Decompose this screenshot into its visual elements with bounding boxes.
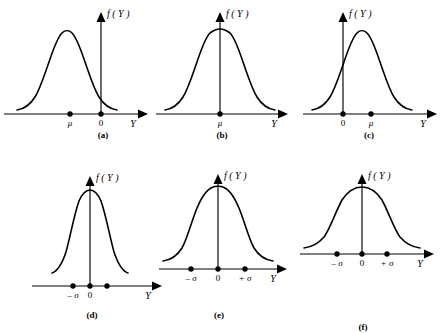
density-label: f ( Y )	[224, 170, 247, 182]
origin-dot	[340, 111, 345, 116]
tick-label-minus-sigma: – σ	[66, 290, 79, 300]
tick-label-mu: μ	[217, 118, 223, 128]
tick-dot-plus-sigma	[242, 266, 247, 271]
x-axis-arrow-icon	[277, 265, 287, 274]
panel-e-plot: – σ 0 + σ Y f ( Y )	[155, 166, 305, 286]
y-axis-arrow-icon	[97, 12, 106, 22]
tick-label-zero: 0	[88, 290, 93, 300]
panel-c: 0 μ Y f ( Y ) (c)	[299, 4, 445, 126]
panel-caption-f: (f)	[318, 322, 408, 332]
tick-label-mu: μ	[67, 118, 73, 128]
x-axis-title: Y	[420, 118, 427, 129]
tick-label-mu: μ	[368, 118, 374, 128]
normal-curve-c	[312, 31, 412, 110]
panel-caption-e: (e)	[174, 310, 264, 320]
density-label: f ( Y )	[349, 8, 372, 20]
origin-dot	[359, 251, 364, 256]
density-label: f ( Y )	[96, 172, 119, 184]
tick-dot-minus-sigma	[334, 251, 339, 256]
y-axis-arrow-icon	[358, 174, 367, 184]
panel-f: – σ 0 + σ Y f ( Y ) (f)	[296, 166, 445, 276]
origin-dot	[215, 266, 220, 271]
x-axis-title: Y	[130, 118, 137, 129]
tick-label-zero: 0	[99, 118, 104, 128]
panel-e: – σ 0 + σ Y f ( Y ) (e)	[155, 166, 305, 286]
panel-f-plot: – σ 0 + σ Y f ( Y )	[296, 166, 445, 276]
x-axis-title: Y	[271, 118, 278, 129]
panel-c-plot: 0 μ Y f ( Y )	[299, 4, 445, 126]
x-axis-arrow-icon	[424, 250, 434, 259]
panel-caption-c: (c)	[324, 130, 414, 140]
density-label: f ( Y )	[368, 170, 391, 182]
origin-dot	[87, 283, 92, 288]
y-axis-arrow-icon	[339, 12, 348, 22]
figure-canvas: μ 0 Y f ( Y ) (a) μ Y f ( Y ) (b)	[0, 0, 445, 333]
tick-label-plus-sigma: + σ	[381, 258, 394, 268]
tick-label-zero: 0	[341, 118, 346, 128]
x-axis-arrow-icon	[138, 110, 148, 119]
mean-dot-mu	[368, 111, 373, 116]
tick-label-minus-sigma: – σ	[184, 273, 197, 283]
x-axis-arrow-icon	[278, 110, 288, 119]
tick-label-zero: 0	[360, 258, 365, 268]
panel-b-plot: μ Y f ( Y )	[152, 4, 297, 126]
tick-dot-plus-sigma	[104, 283, 109, 288]
panel-caption-a: (a)	[58, 130, 148, 140]
x-axis-title: Y	[270, 273, 277, 284]
y-axis-arrow-icon	[216, 12, 225, 22]
panel-caption-d: (d)	[47, 310, 137, 320]
tick-label-plus-sigma: + σ	[239, 273, 252, 283]
mean-dot-mu	[217, 111, 222, 116]
y-axis-arrow-icon	[214, 174, 223, 184]
panel-caption-b: (b)	[177, 130, 267, 140]
density-label: f ( Y )	[226, 8, 249, 20]
x-axis-title: Y	[145, 290, 152, 301]
panel-b: μ Y f ( Y ) (b)	[152, 4, 297, 126]
y-axis-arrow-icon	[86, 176, 95, 186]
x-axis-title: Y	[417, 258, 424, 269]
panel-a: μ 0 Y f ( Y ) (a)	[0, 4, 150, 126]
tick-label-zero: 0	[216, 273, 221, 283]
panel-a-plot: μ 0 Y f ( Y )	[0, 4, 150, 126]
x-axis-arrow-icon	[427, 110, 437, 119]
mean-dot-mu	[67, 111, 72, 116]
tick-dot-minus-sigma	[188, 266, 193, 271]
tick-dot-plus-sigma	[384, 251, 389, 256]
tick-label-minus-sigma: – σ	[330, 258, 343, 268]
tick-dot-minus-sigma	[70, 283, 75, 288]
normal-curve-a	[17, 31, 117, 110]
density-label: f ( Y )	[107, 8, 130, 20]
origin-dot	[98, 111, 103, 116]
